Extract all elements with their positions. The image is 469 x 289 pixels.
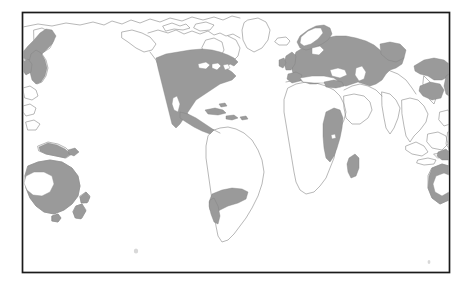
world-map-canvas [0,0,469,289]
plate-blemish-mark-2 [428,260,431,264]
world-map-figure: Pacific-centred world outline map with g… [0,0,469,289]
plate-blemish-mark [134,248,138,253]
shade-lake-victoria-hole [331,134,336,139]
